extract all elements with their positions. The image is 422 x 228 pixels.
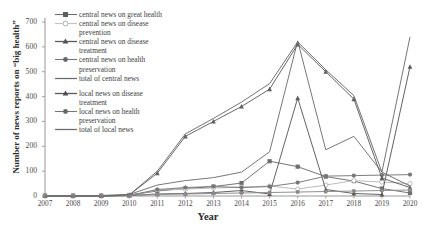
data-point-marker bbox=[352, 189, 356, 193]
data-point-marker bbox=[268, 159, 272, 163]
data-point-marker bbox=[352, 174, 356, 178]
legend-item-label-continued: treatment bbox=[79, 98, 215, 107]
legend-marker-circle-icon bbox=[55, 107, 77, 116]
data-point-marker bbox=[380, 188, 384, 192]
data-point-marker bbox=[296, 180, 300, 184]
data-point-marker bbox=[155, 192, 159, 196]
legend-item-label: central news on great health bbox=[79, 10, 215, 19]
legend-marker-triangle-icon bbox=[55, 37, 77, 46]
data-point-marker bbox=[296, 165, 300, 169]
legend-marker-circle-icon bbox=[55, 55, 77, 64]
data-point-marker bbox=[239, 191, 243, 195]
data-point-marker bbox=[324, 174, 328, 178]
legend-item-label-continued: preservation bbox=[79, 116, 215, 125]
data-point-marker bbox=[183, 185, 187, 189]
data-point-marker bbox=[268, 184, 272, 188]
data-point-marker bbox=[408, 64, 413, 69]
chart-legend: central news on great healthcentral news… bbox=[55, 10, 215, 134]
data-point-marker bbox=[183, 192, 187, 196]
legend-item-label: total of local news bbox=[79, 125, 215, 134]
legend-item[interactable]: total of central news bbox=[55, 74, 215, 83]
legend-item[interactable]: total of local news bbox=[55, 125, 215, 134]
legend-marker-circle-open-icon bbox=[55, 19, 77, 28]
legend-item[interactable]: local news on disease bbox=[55, 89, 215, 98]
legend-item-label: total of central news bbox=[79, 74, 215, 83]
legend-item-label: central news on disease bbox=[79, 19, 215, 28]
data-point-marker bbox=[211, 184, 215, 188]
data-point-marker bbox=[408, 188, 412, 192]
legend-item[interactable]: central news on health bbox=[55, 55, 215, 64]
data-point-marker bbox=[380, 180, 384, 184]
series-local-news-on-health-preservation bbox=[43, 188, 412, 198]
data-point-marker bbox=[239, 104, 244, 109]
legend-marker-line-icon bbox=[55, 125, 77, 134]
legend-item-label: local news on health bbox=[79, 107, 215, 116]
legend-item-label-continued: prevention bbox=[79, 28, 215, 37]
data-point-marker bbox=[352, 178, 356, 182]
legend-marker-triangle-icon bbox=[55, 89, 77, 98]
legend-item-label: local news on disease bbox=[79, 89, 215, 98]
legend-item[interactable]: local news on health bbox=[55, 107, 215, 116]
data-point-marker bbox=[155, 187, 159, 191]
legend-item[interactable]: central news on great health bbox=[55, 10, 215, 19]
data-point-marker bbox=[296, 190, 300, 194]
data-point-marker bbox=[408, 173, 412, 177]
legend-item[interactable]: central news on disease bbox=[55, 37, 215, 46]
legend-marker-square-icon bbox=[55, 10, 77, 19]
series-central-news-on-health-preservation bbox=[43, 173, 412, 199]
legend-item-label: central news on health bbox=[79, 55, 215, 64]
legend-item[interactable]: central news on disease bbox=[55, 19, 215, 28]
legend-item-label: central news on disease bbox=[79, 37, 215, 46]
data-point-marker bbox=[324, 189, 328, 193]
legend-item-label-continued: preservation bbox=[79, 65, 215, 74]
data-point-marker bbox=[211, 191, 215, 195]
data-point-marker bbox=[295, 96, 300, 101]
data-point-marker bbox=[239, 185, 243, 189]
legend-marker-line-icon bbox=[55, 74, 77, 83]
legend-item-label-continued: treatment bbox=[79, 46, 215, 55]
data-point-marker bbox=[268, 190, 272, 194]
